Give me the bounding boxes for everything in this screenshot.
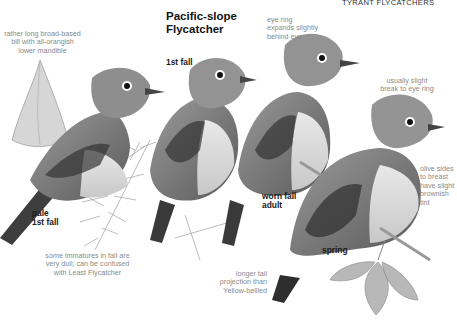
bill-annotation: rather long broad-based bill with all-or… [0,30,85,55]
section-header: TYRANT FLYCATCHERS [342,0,457,7]
olive-sides-annotation: olive sides to breast have slight browni… [420,165,457,207]
eye-ring-break-annotation-line: break to eye ring [372,85,442,93]
label-worn-fall-adult: worn fall adult [262,192,296,210]
label-spring: spring [322,246,348,255]
label-pale-1st-fall-line: 1st fall [32,218,59,227]
immatures-annotation-line: with Least Flycatcher [40,269,135,277]
eye-ring-annotation: eye ring expands slightly behind eye [267,16,347,41]
tail-projection-annotation-line: Yellow-bellied [205,287,267,295]
immatures-annotation: some immatures in fall are very dull; ca… [40,252,135,277]
bird-pale-1st-fall [0,68,165,245]
eye-ring-annotation-line: behind eye [267,33,347,41]
bill-closeup-illustration [12,60,68,147]
olive-sides-annotation-line: tint [420,199,457,207]
label-1st-fall: 1st fall [166,58,193,67]
species-title: Pacific-slope Flycatcher [166,10,237,35]
label-worn-fall-adult-line: adult [262,201,296,210]
leaves-illustration [330,262,418,315]
tail-projection-annotation: longer tail projection than Yellow-belli… [205,270,267,295]
bill-annotation-line: lower mandible [0,47,85,55]
species-title-line1: Pacific-slope [166,10,237,23]
eye-ring-break-annotation: usually slight break to eye ring [372,77,442,94]
species-title-line2: Flycatcher [166,23,237,36]
label-pale-1st-fall: pale 1st fall [32,209,59,227]
